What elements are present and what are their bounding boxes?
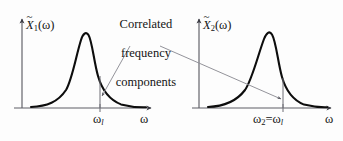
tilde-accent-icon: ~ [27, 11, 33, 22]
annotation-line-3: components [92, 75, 200, 90]
left-x-axis-tick-label: ωl [93, 112, 104, 127]
right-tick-relation: = [265, 112, 272, 126]
left-tick-symbol: ω [93, 112, 101, 126]
left-y-axis-argument: (ω) [38, 18, 55, 32]
left-y-axis-label: ~X1(ω) [26, 18, 54, 33]
tilde-accent-icon: ~ [204, 11, 210, 22]
right-tick-subscript-2: l [281, 117, 283, 127]
spectral-correlation-figure: Correlated frequency components ~X1(ω) ω… [0, 0, 343, 141]
annotation-label: Correlated frequency components [92, 2, 200, 104]
right-spectrum-curve [208, 32, 327, 107]
left-tick-subscript: l [101, 117, 103, 127]
right-x-axis-tick-label: ω2=ωl [253, 112, 283, 127]
right-tick-symbol: ω [253, 112, 261, 126]
left-x-axis-label: ω [140, 112, 148, 127]
right-x-axis-label: ω [325, 112, 333, 127]
right-y-axis-label: ~X2(ω) [203, 18, 231, 33]
annotation-line-2: frequency [92, 46, 200, 61]
right-y-axis-argument: (ω) [215, 18, 232, 32]
right-y-axis-symbol-group: ~X [203, 18, 211, 33]
annotation-line-1: Correlated [92, 17, 200, 32]
right-tick-symbol-2: ω [273, 112, 281, 126]
left-y-axis-symbol-group: ~X [26, 18, 34, 33]
